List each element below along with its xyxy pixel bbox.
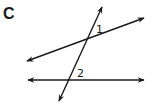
angle-1-label: 1 xyxy=(96,23,103,36)
diagram-canvas: C 1 2 xyxy=(0,0,159,106)
upper-line xyxy=(27,18,144,61)
transversal-line xyxy=(59,7,102,101)
angle-figure: 1 2 xyxy=(0,0,159,106)
angle-2-label: 2 xyxy=(77,67,84,80)
